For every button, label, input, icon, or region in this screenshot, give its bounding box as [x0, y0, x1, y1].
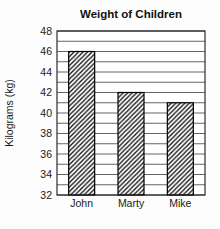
weight-of-children-chart: Weight of Children Kilograms (kg) 323436… — [0, 0, 220, 229]
bar-chart-svg: Weight of Children Kilograms (kg) 323436… — [0, 0, 220, 229]
x-category-labels: JohnMartyMike — [70, 197, 191, 209]
y-tick-label-48: 48 — [40, 25, 52, 37]
category-label-mike: Mike — [169, 197, 191, 209]
category-label-john: John — [70, 197, 93, 209]
y-tick-label-34: 34 — [40, 168, 52, 180]
chart-title: Weight of Children — [80, 8, 182, 20]
y-tick-label-40: 40 — [40, 107, 52, 119]
y-tick-labels: 323436384042444648 — [40, 25, 52, 201]
y-tick-label-36: 36 — [40, 148, 52, 160]
y-tick-label-32: 32 — [40, 189, 52, 201]
y-axis-title: Kilograms (kg) — [3, 79, 15, 147]
category-label-marty: Marty — [118, 197, 145, 209]
bar-marty — [118, 93, 144, 196]
y-tick-label-42: 42 — [40, 86, 52, 98]
y-tick-label-38: 38 — [40, 127, 52, 139]
bar-john — [69, 52, 95, 196]
y-tick-label-46: 46 — [40, 45, 52, 57]
bar-mike — [167, 103, 193, 195]
y-tick-label-44: 44 — [40, 66, 52, 78]
